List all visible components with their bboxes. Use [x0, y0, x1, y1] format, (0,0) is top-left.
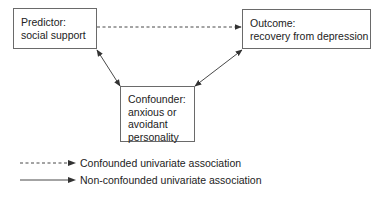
- dashed-arrow-icon: [20, 157, 76, 169]
- confounder-label-line-2: avoidant: [128, 118, 194, 131]
- predictor-label: social support: [21, 29, 96, 42]
- confounding-diagram: Predictor: social support Outcome: recov…: [0, 0, 382, 197]
- outcome-title: Outcome:: [250, 17, 370, 30]
- predictor-confounder-arrow: [97, 50, 120, 86]
- predictor-box: Predictor: social support: [13, 8, 97, 49]
- legend-item-non-confounded: Non-confounded univariate association: [20, 174, 262, 186]
- legend-label-confounded: Confounded univariate association: [80, 157, 241, 169]
- legend-label-non-confounded: Non-confounded univariate association: [80, 174, 262, 186]
- confounder-title: Confounder:: [128, 93, 194, 106]
- confounder-outcome-arrow: [195, 50, 242, 86]
- legend-item-confounded: Confounded univariate association: [20, 157, 241, 169]
- predictor-title: Predictor:: [21, 16, 96, 29]
- outcome-box: Outcome: recovery from depression: [242, 9, 371, 49]
- outcome-label: recovery from depression: [250, 30, 370, 43]
- solid-arrow-icon: [20, 174, 76, 186]
- confounder-box: Confounder: anxious or avoidant personal…: [120, 86, 195, 142]
- confounder-label-line-1: anxious or: [128, 106, 194, 119]
- confounder-label-line-3: personality: [128, 131, 194, 144]
